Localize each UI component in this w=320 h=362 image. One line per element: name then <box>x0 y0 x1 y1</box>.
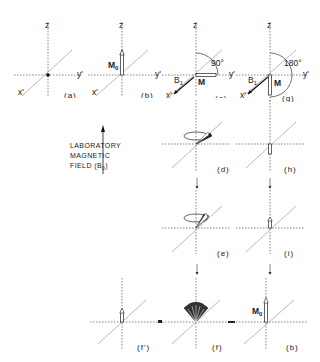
caption-a: (a) <box>64 91 77 98</box>
panel-g: z y' x' 180° M B1 (g) <box>236 16 316 102</box>
z-label: z <box>45 20 49 30</box>
angle-label: 90° <box>211 58 224 68</box>
b1-label: B1 <box>248 75 258 86</box>
down-arrow-icon <box>267 178 273 190</box>
svg-text:y': y' <box>155 69 161 79</box>
caption-b: (b) <box>141 91 154 98</box>
svg-text:M: M <box>198 77 205 87</box>
x-axis <box>22 50 72 96</box>
up-arrow-icon <box>101 125 105 132</box>
origin-dot <box>46 73 50 77</box>
caption-i: (i) <box>284 249 294 258</box>
svg-text:x': x' <box>92 87 98 97</box>
b1-label: B1 <box>174 75 184 86</box>
svg-text:z: z <box>119 20 123 30</box>
laboratory-field-label: LABORATORY MAGNETIC FIELD (B0) <box>70 141 121 173</box>
m0-label: M0 <box>108 60 119 71</box>
m-vector <box>269 144 272 154</box>
panel-e: (e) <box>162 190 238 270</box>
panel-a: z y' x' (a) <box>14 16 84 98</box>
svg-text:x': x' <box>166 90 172 98</box>
caption-f: (f) <box>212 343 223 352</box>
down-arrow-icon <box>194 264 200 276</box>
m0-vector <box>265 302 268 322</box>
y-label: y' <box>77 69 83 79</box>
svg-text:y': y' <box>229 69 235 79</box>
m-vector <box>269 75 272 95</box>
caption-c: (c) <box>215 94 227 98</box>
angle-label: 180° <box>284 58 302 68</box>
panel-c: z y' x' 90° M B1 (c) <box>162 16 238 98</box>
caption-d: (d) <box>217 165 230 174</box>
m0-vector <box>121 54 124 75</box>
panel-h: (h) <box>236 100 316 180</box>
panel-b-final: M0 (b) <box>236 278 316 354</box>
right-arrow-icon <box>228 321 235 323</box>
x-label: x' <box>18 87 24 97</box>
svg-text:M: M <box>274 78 281 88</box>
caption-f-prime: (f') <box>137 343 150 352</box>
caption-b-final: (b) <box>286 343 299 352</box>
down-arrow-icon <box>267 264 273 276</box>
svg-text:y': y' <box>303 69 309 79</box>
m-vector <box>121 312 124 322</box>
panel-i: (i) <box>236 190 316 270</box>
panel-f: (f) <box>162 278 238 354</box>
svg-text:z: z <box>267 20 271 30</box>
svg-text:x': x' <box>240 90 246 100</box>
down-arrow-icon <box>194 178 200 190</box>
caption-e: (e) <box>217 249 230 258</box>
svg-text:z: z <box>193 20 197 30</box>
caption-h: (h) <box>284 165 297 174</box>
panel-b: z y' x' M0 (b) <box>88 16 162 98</box>
panel-f-prime: (f') <box>90 278 160 354</box>
panel-d: (d) <box>162 100 238 180</box>
m0-label: M0 <box>252 306 263 317</box>
